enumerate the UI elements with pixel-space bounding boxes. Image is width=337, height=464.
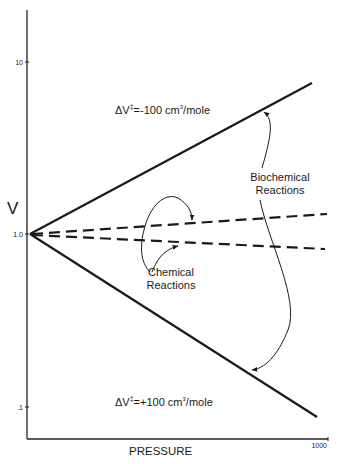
y-axis-label: V xyxy=(7,199,19,218)
chem-label-line2: Reactions xyxy=(147,279,196,291)
biochem-label-line1: Biochemical xyxy=(250,171,309,183)
chem-label-line1: Chemical xyxy=(148,266,194,278)
biochem-arrow-down xyxy=(252,200,291,370)
line-positive-dv xyxy=(30,234,317,417)
biochem-label-line2: Reactions xyxy=(256,184,305,196)
x-tick-label-1000: 1000 xyxy=(311,442,327,449)
y-tick-label-1: 1.0 xyxy=(13,231,23,238)
biochem-arrow-up xyxy=(262,112,270,168)
dashed-line-lower xyxy=(32,235,325,249)
y-tick-label-10: 10 xyxy=(15,59,23,66)
x-axis-label: PRESSURE xyxy=(129,445,193,457)
y-tick-label-01: .1 xyxy=(17,404,23,411)
annotation-positive-dv: ΔV‡=+100 cm3/mole xyxy=(115,395,213,408)
annotation-negative-dv: ΔV‡=-100 cm3/mole xyxy=(115,103,210,116)
chem-arrow-upper xyxy=(142,197,192,272)
dashed-line-upper xyxy=(32,214,327,234)
chart: 10 1.0 .1 1000 V PRESSURE ΔV‡=-100 cm3/m… xyxy=(0,0,337,464)
